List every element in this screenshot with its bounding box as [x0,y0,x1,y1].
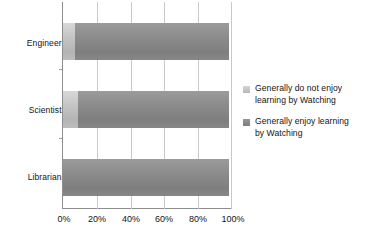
y-axis-tick [59,69,63,70]
legend-label-line1: Generally do not enjoy [255,83,342,93]
xtick-label-40: 40% [122,214,140,224]
category-label-scientists: Scientists [29,105,66,115]
legend-label-do-not-enjoy: Generally do not enjoy learning by Watch… [255,83,342,106]
legend-item-enjoy: Generally enjoy learning by Watching [243,116,365,139]
bar-segment-do-not-enjoy [63,23,75,60]
y-axis-tick [59,138,63,139]
stacked-bar-chart: Engineers Scientists Librarians 0% 20% 4… [0,0,368,242]
category-label-librarians: Librarians [28,172,66,182]
xtick-label-100: 100% [221,214,244,224]
xtick-label-0: 0% [57,214,70,224]
bar-segment-enjoy [63,159,229,196]
xtick-label-20: 20% [88,214,106,224]
legend: Generally do not enjoy learning by Watch… [243,83,365,149]
legend-swatch-icon [243,86,250,93]
bar-segment-enjoy [75,23,229,60]
gridline-100 [231,2,232,209]
xtick-label-80: 80% [189,214,207,224]
category-label-engineers: Engineers [27,38,66,48]
x-axis-line [62,208,232,209]
legend-item-do-not-enjoy: Generally do not enjoy learning by Watch… [243,83,365,106]
plot-area [63,2,232,209]
legend-label-line2: learning by Watching [255,95,336,105]
xtick-label-60: 60% [155,214,173,224]
bar-segment-enjoy [78,91,228,128]
legend-swatch-icon [243,119,250,126]
legend-label-line2: by Watching [255,128,303,138]
bar-segment-do-not-enjoy [63,91,78,128]
legend-label-enjoy: Generally enjoy learning by Watching [255,116,349,139]
legend-label-line1: Generally enjoy learning [255,116,349,126]
